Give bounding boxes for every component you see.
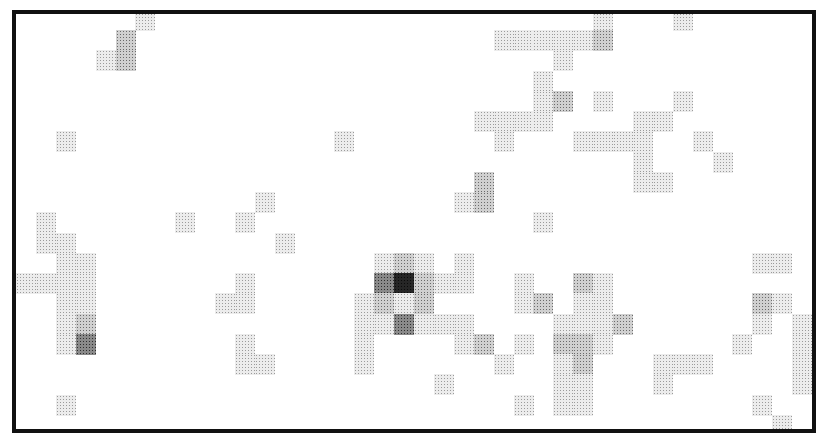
- heatmap-cell: [772, 293, 792, 314]
- heatmap-cell: [533, 111, 553, 132]
- heatmap-cell: [633, 131, 653, 152]
- heatmap-cell: [454, 314, 474, 335]
- heatmap-cell: [374, 253, 394, 274]
- heatmap-cell: [533, 30, 553, 51]
- heatmap-cell: [593, 131, 613, 152]
- heatmap-cell: [752, 253, 772, 274]
- heatmap-cell: [374, 314, 394, 335]
- heatmap-cell: [593, 30, 613, 51]
- heatmap-cell: [573, 374, 593, 395]
- heatmap-cell: [732, 334, 752, 355]
- heatmap-cell: [494, 354, 514, 375]
- heatmap-cell: [553, 395, 573, 416]
- heatmap-cell: [454, 192, 474, 213]
- heatmap-cell: [135, 10, 155, 31]
- heatmap-cell: [414, 273, 434, 294]
- heatmap-cell: [56, 253, 76, 274]
- heatmap-cell: [474, 111, 494, 132]
- heatmap-cell: [56, 131, 76, 152]
- heatmap-cell: [255, 354, 275, 375]
- heatmap-cell: [553, 354, 573, 375]
- heatmap-cell: [434, 273, 454, 294]
- heatmap-cell: [653, 111, 673, 132]
- heatmap-cell: [533, 91, 553, 112]
- heatmap-cell: [693, 131, 713, 152]
- heatmap-cell: [235, 293, 255, 314]
- heatmap-cell: [354, 354, 374, 375]
- heatmap-cell: [76, 314, 96, 335]
- heatmap-cell: [354, 293, 374, 314]
- heatmap-cell: [593, 273, 613, 294]
- heatmap-cell: [593, 314, 613, 335]
- heatmap-cell: [394, 293, 414, 314]
- heatmap-cell: [494, 131, 514, 152]
- heatmap-cell: [454, 334, 474, 355]
- heatmap-cell: [394, 253, 414, 274]
- heatmap-cell: [713, 152, 733, 173]
- heatmap-cell: [56, 233, 76, 254]
- heatmap-cell: [76, 334, 96, 355]
- heatmap-cell: [533, 212, 553, 233]
- heatmap-cell: [593, 334, 613, 355]
- heatmap-cell: [454, 253, 474, 274]
- heatmap-cell: [394, 273, 414, 294]
- heatmap-cell: [235, 212, 255, 233]
- heatmap-cell: [653, 374, 673, 395]
- heatmap-cell: [275, 233, 295, 254]
- heatmap-cell: [235, 354, 255, 375]
- heatmap-cell: [752, 314, 772, 335]
- heatmap-cell: [76, 293, 96, 314]
- heatmap-cell: [56, 334, 76, 355]
- heatmap-grid: [16, 14, 812, 429]
- heatmap-cell: [434, 374, 454, 395]
- heatmap-cell: [633, 172, 653, 193]
- heatmap-cell: [673, 10, 693, 31]
- heatmap-cell: [394, 314, 414, 335]
- heatmap-cell: [514, 334, 534, 355]
- heatmap-cell: [514, 395, 534, 416]
- heatmap-cell: [116, 50, 136, 71]
- heatmap-cell: [514, 111, 534, 132]
- heatmap-cell: [792, 354, 812, 375]
- heatmap-cell: [533, 71, 553, 92]
- heatmap-cell: [653, 172, 673, 193]
- heatmap-cell: [792, 314, 812, 335]
- heatmap-cell: [792, 334, 812, 355]
- heatmap-cell: [414, 253, 434, 274]
- heatmap-cell: [354, 334, 374, 355]
- heatmap-cell: [474, 334, 494, 355]
- heatmap-cell: [752, 293, 772, 314]
- heatmap-cell: [573, 314, 593, 335]
- heatmap-cell: [573, 334, 593, 355]
- heatmap-cell: [16, 273, 36, 294]
- heatmap-cell: [514, 293, 534, 314]
- heatmap-cell: [553, 30, 573, 51]
- heatmap-cell: [573, 293, 593, 314]
- heatmap-cell: [593, 293, 613, 314]
- heatmap-cell: [573, 395, 593, 416]
- heatmap-cell: [354, 314, 374, 335]
- heatmap-cell: [633, 111, 653, 132]
- heatmap-cell: [56, 273, 76, 294]
- heatmap-cell: [693, 354, 713, 375]
- heatmap-cell: [414, 293, 434, 314]
- heatmap-cell: [494, 111, 514, 132]
- heatmap-cell: [474, 172, 494, 193]
- heatmap-cell: [792, 374, 812, 395]
- heatmap-cell: [235, 334, 255, 355]
- heatmap-cell: [573, 30, 593, 51]
- heatmap-cell: [454, 273, 474, 294]
- heatmap-cell: [76, 273, 96, 294]
- heatmap-cell: [76, 253, 96, 274]
- heatmap-cell: [116, 30, 136, 51]
- heatmap-cell: [36, 233, 56, 254]
- heatmap-cell: [653, 354, 673, 375]
- heatmap-frame: [12, 10, 816, 433]
- heatmap-cell: [553, 314, 573, 335]
- heatmap-cell: [474, 192, 494, 213]
- heatmap-cell: [36, 273, 56, 294]
- heatmap-cell: [613, 131, 633, 152]
- heatmap-cell: [553, 374, 573, 395]
- heatmap-cell: [494, 30, 514, 51]
- heatmap-cell: [573, 273, 593, 294]
